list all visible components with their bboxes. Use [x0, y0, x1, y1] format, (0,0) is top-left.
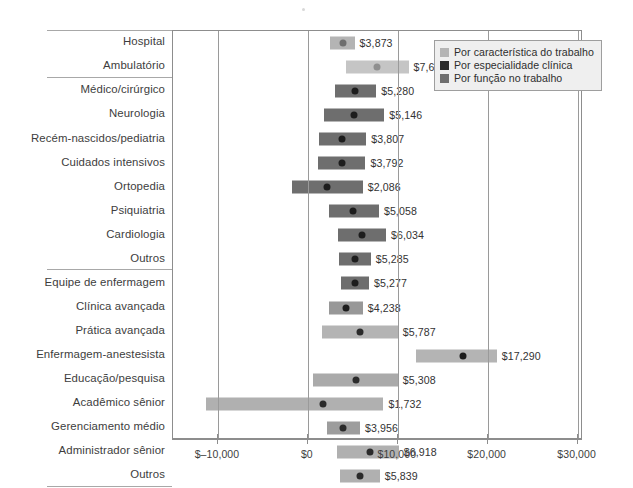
legend-item: Por especialidade clínica [440, 59, 594, 71]
axis-tick [397, 434, 398, 444]
confidence-interval-bar [416, 349, 497, 362]
point-estimate-dot [352, 280, 359, 287]
group-separator-line [47, 30, 172, 31]
point-estimate-dot [352, 256, 359, 263]
plot-rows: $3,873$7,678$5,280$5,146$3,807$3,792$2,0… [173, 31, 581, 438]
bar-row: $5,277 [173, 271, 581, 295]
category-label: Psiquiatria [111, 205, 165, 216]
value-label: $3,807 [371, 133, 404, 145]
category-label: Prática avançada [75, 325, 165, 336]
value-label: $5,058 [384, 205, 417, 217]
category-label-row: Prática avançada [0, 319, 172, 343]
legend-label: Por especialidade clínica [454, 59, 572, 71]
bar-row: $3,807 [173, 127, 581, 151]
decorative-speck [302, 8, 305, 11]
value-label: $3,956 [365, 422, 398, 434]
category-label-row: Ortopedia [0, 174, 172, 198]
legend-label: Por característica do trabalho [454, 46, 594, 58]
category-label: Neurologia [109, 108, 165, 119]
category-label-row: Administrador sênior [0, 439, 172, 463]
axis-tick [577, 434, 578, 444]
category-label: Cuidados intensivos [61, 157, 165, 168]
category-label: Outros [130, 469, 165, 480]
category-label-row: Cardiologia [0, 222, 172, 246]
point-estimate-dot [339, 40, 346, 47]
point-estimate-dot [339, 136, 346, 143]
point-estimate-dot [351, 112, 358, 119]
axis-tick [487, 434, 488, 444]
category-label-row: Cuidados intensivos [0, 150, 172, 174]
point-estimate-dot [460, 352, 467, 359]
value-label: $5,308 [403, 374, 436, 386]
category-label-row: Recém-nascidos/pediatria [0, 126, 172, 150]
category-label: Hospital [123, 36, 165, 47]
value-label: $5,277 [374, 277, 407, 289]
category-label-row: Equipe de enfermagem [0, 270, 172, 294]
bar-row: $5,839 [173, 464, 581, 488]
value-label: $5,146 [389, 109, 422, 121]
gridline [218, 31, 219, 438]
gridline [578, 31, 579, 438]
category-label-row: Outros [0, 463, 172, 487]
group-separator-line [47, 486, 172, 487]
bar-row: $5,146 [173, 103, 581, 127]
category-label: Acadêmico sênior [73, 397, 165, 408]
point-estimate-dot [320, 400, 327, 407]
value-label: $17,290 [502, 350, 541, 362]
bar-row: $5,308 [173, 368, 581, 392]
point-estimate-dot [350, 208, 357, 215]
bar-row: $6,034 [173, 223, 581, 247]
category-label: Administrador sênior [59, 445, 165, 456]
point-estimate-dot [357, 472, 364, 479]
legend-swatch-icon [440, 74, 449, 83]
category-label-row: Médico/cirúrgico [0, 78, 172, 102]
value-label: $4,238 [368, 302, 401, 314]
category-label: Gerenciamento médio [51, 421, 165, 432]
bar-row: $2,086 [173, 175, 581, 199]
category-label: Enfermagem-anestesista [36, 349, 165, 360]
gridline [398, 31, 399, 438]
category-label-row: Acadêmico sênior [0, 391, 172, 415]
point-estimate-dot [356, 328, 363, 335]
point-estimate-dot [338, 160, 345, 167]
legend-label: Por função no trabalho [454, 72, 562, 84]
point-estimate-dot [342, 304, 349, 311]
axis-tick [217, 434, 218, 444]
gridline [308, 31, 309, 438]
category-label: Equipe de enfermagem [45, 277, 165, 288]
point-estimate-dot [359, 232, 366, 239]
category-label: Ortopedia [114, 181, 165, 192]
category-label: Ambulatório [103, 60, 165, 71]
legend-item: Por característica do trabalho [440, 46, 594, 58]
value-label: $6,034 [391, 229, 424, 241]
axis-tick [307, 434, 308, 444]
bar-row: $3,792 [173, 151, 581, 175]
category-label-row: Neurologia [0, 102, 172, 126]
category-label-row: Ambulatório [0, 54, 172, 78]
value-label: $1,732 [388, 398, 421, 410]
bar-row: $3,956 [173, 416, 581, 440]
axis-tick-label: $20,000 [467, 448, 506, 460]
value-label: $5,787 [403, 326, 436, 338]
axis-tick-label: $10,000 [377, 448, 416, 460]
axis-tick-label: $30,000 [557, 448, 596, 460]
category-label-row: Psiquiatria [0, 198, 172, 222]
confidence-interval-bar [206, 397, 383, 410]
bar-row: $1,732 [173, 392, 581, 416]
category-label: Cardiologia [106, 229, 165, 240]
point-estimate-dot [323, 184, 330, 191]
point-estimate-dot [352, 88, 359, 95]
category-label-row: Gerenciamento médio [0, 415, 172, 439]
axis-tick-label: $0 [301, 448, 313, 460]
bar-row: $5,058 [173, 199, 581, 223]
legend-item: Por função no trabalho [440, 72, 594, 84]
category-label-row: Enfermagem-anestesista [0, 343, 172, 367]
bar-row: $5,787 [173, 320, 581, 344]
category-label: Clínica avançada [76, 301, 165, 312]
category-label-row: Educação/pesquisa [0, 367, 172, 391]
category-label: Educação/pesquisa [64, 373, 165, 384]
bar-row: $5,285 [173, 247, 581, 271]
category-label: Outros [130, 253, 165, 264]
point-estimate-dot [373, 64, 380, 71]
